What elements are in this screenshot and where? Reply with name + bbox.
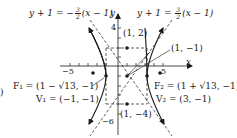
x-axis bbox=[60, 63, 192, 66]
x-tick-5: 5 bbox=[161, 68, 166, 76]
point-top bbox=[125, 46, 129, 50]
x-tick-neg5: −5 bbox=[62, 68, 74, 76]
point-bottom bbox=[125, 102, 129, 106]
point-F1 bbox=[91, 71, 95, 75]
point-V1 bbox=[104, 74, 108, 78]
hyperbola-diagram: y + 1 = −32(x − 1) y + 1 = 32(x − 1) y x… bbox=[0, 0, 237, 138]
point-V2 bbox=[145, 74, 149, 78]
edge-fragment: ) bbox=[0, 88, 4, 97]
y-tick-4: 4 bbox=[111, 24, 116, 32]
asymptote-left-equation: y + 1 = −32(x − 1) bbox=[29, 7, 113, 20]
label-bottom-point: (1, −4) bbox=[120, 110, 152, 119]
label-top-point: (1, 2) bbox=[123, 29, 147, 38]
label-F2: F₂ = (1 + √13, −1) bbox=[154, 82, 237, 91]
asymptote-right-equation: y + 1 = 32(x − 1) bbox=[137, 7, 213, 20]
label-F1: F₁ = (1 − √13, −1) bbox=[13, 82, 98, 91]
label-center-point: (1, −1) bbox=[171, 44, 203, 53]
label-V2: V₂ = (3, −1) bbox=[156, 95, 211, 104]
y-tick-neg6: −6 bbox=[102, 118, 114, 126]
label-V1: V₁ = (−1, −1) bbox=[36, 95, 99, 104]
x-axis-label: x bbox=[186, 58, 191, 67]
graph-canvas bbox=[0, 0, 237, 138]
y-axis-label: y bbox=[110, 9, 115, 18]
